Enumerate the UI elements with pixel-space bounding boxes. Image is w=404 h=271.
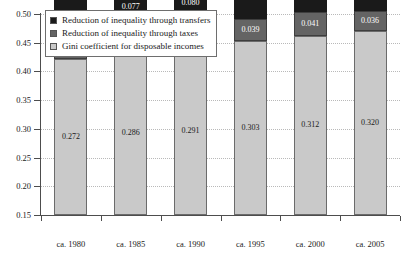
bar-segment: 0.291 [174,48,207,215]
legend-swatch-icon [50,30,57,37]
bar-value-label: 0.036 [361,17,379,25]
y-axis-tick-label: 0.50 [0,10,31,19]
x-axis-tick-label: ca. 1995 [221,240,281,249]
legend-item-label: Reduction of inequality through transfer… [62,16,210,25]
x-axis-tick-label: ca. 1990 [161,240,221,249]
y-tick-mark [34,100,40,101]
y-axis-tick-label: 0.25 [0,154,31,163]
legend-item: Reduction of inequality through transfer… [50,14,210,27]
y-tick-mark [34,158,40,159]
stacked-bar-chart: 0.2720.0360.0670.2860.0380.0770.2910.039… [0,0,404,271]
x-axis-tick-label: ca. 2000 [280,240,340,249]
bar-value-label: 0.272 [62,133,80,141]
legend-item-label: Gini coefficient for disposable incomes [62,42,204,51]
x-axis-tick-label: ca. 1985 [101,240,161,249]
y-axis-tick-label: 0.45 [0,39,31,48]
bar-value-label: 0.320 [361,119,379,127]
y-axis-line [40,13,41,216]
y-axis-tick-label: 0.35 [0,96,31,105]
bar-segment: 0.036 [354,11,387,32]
y-tick-mark [34,186,40,187]
gridline [41,100,400,101]
x-axis-tick-label: ca. 1980 [41,240,101,249]
bar-value-label: 0.303 [241,124,259,132]
gridline [41,71,400,72]
bar-segment: 0.320 [354,31,387,215]
bar-value-label: 0.039 [241,26,259,34]
y-tick-mark [34,129,40,130]
x-tick-mark [400,216,401,221]
bar-segment: 0.312 [294,36,327,215]
bar-value-label: 0.312 [301,121,319,129]
bar-1995: 0.3030.0390.091 [234,52,267,215]
bar-value-label: 0.286 [122,129,140,137]
bar-segment: 0.091 [234,0,267,19]
bar-1980: 0.2720.0360.067 [54,86,87,215]
legend-swatch-icon [50,43,57,50]
y-axis-tick-label: 0.30 [0,125,31,134]
bar-value-label: 0.291 [182,127,200,135]
bar-segment: 0.286 [114,51,147,215]
bar-value-label: 0.041 [301,20,319,28]
gridline [41,186,400,187]
x-tick-mark [280,216,281,221]
legend-item-label: Reduction of inequality through taxes [62,29,198,38]
bar-segment: 0.091 [294,0,327,12]
y-tick-mark [34,71,40,72]
bar-segment: 0.041 [294,12,327,36]
bar-1990: 0.2910.0390.080 [174,66,207,215]
bar-segment: 0.094 [354,0,387,11]
chart-legend: Reduction of inequality through transfer… [45,10,217,57]
gridline [41,129,400,130]
legend-swatch-icon [50,17,57,24]
bar-2000: 0.3120.0410.091 [294,46,327,215]
gridline [41,158,400,159]
bar-segment: 0.039 [234,19,267,41]
y-tick-mark [34,215,40,216]
y-axis-tick-label: 0.20 [0,182,31,191]
y-tick-mark [34,14,40,15]
bar-segment: 0.303 [234,41,267,215]
x-axis-tick-label: ca. 2005 [340,240,400,249]
x-tick-mark [161,216,162,221]
legend-item: Reduction of inequality through taxes [50,27,210,40]
bar-1985: 0.2860.0380.077 [114,71,147,215]
bar-segment: 0.272 [54,59,87,215]
x-tick-mark [221,216,222,221]
bar-2005: 0.3200.0360.094 [354,43,387,215]
y-axis-tick-label: 0.15 [0,211,31,220]
y-axis-tick-label: 0.40 [0,67,31,76]
y-tick-mark [34,43,40,44]
legend-item: Gini coefficient for disposable incomes [50,40,210,53]
x-tick-mark [41,216,42,221]
bar-value-label: 0.080 [182,0,200,7]
x-tick-mark [340,216,341,221]
x-tick-mark [101,216,102,221]
